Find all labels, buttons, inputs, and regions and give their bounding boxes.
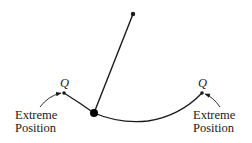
pendulum-diagram: Q Q Extreme Position Extreme Position xyxy=(0,0,252,143)
right-extreme-label-line2: Position xyxy=(193,121,235,135)
left-extreme-point xyxy=(62,91,66,95)
pendulum-rod xyxy=(94,14,133,113)
right-extreme-point xyxy=(200,91,204,95)
right-q-label: Q xyxy=(198,76,207,90)
right-extreme-label-line1: Extreme xyxy=(193,108,236,122)
left-extreme-label-line1: Extreme xyxy=(15,108,58,122)
pendulum-bob xyxy=(90,109,98,117)
left-q-label: Q xyxy=(60,76,69,90)
pivot-point xyxy=(131,12,135,16)
left-arrow xyxy=(40,93,61,107)
left-extreme-label-line2: Position xyxy=(15,121,57,135)
right-arrow xyxy=(205,94,220,107)
swing-arc xyxy=(64,93,202,122)
